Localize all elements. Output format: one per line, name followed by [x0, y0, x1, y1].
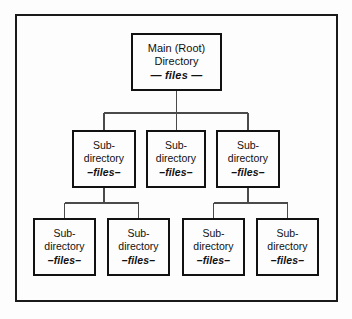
node-line1: Sub-	[237, 139, 259, 151]
node-line1: Sub-	[276, 227, 298, 239]
node-line1: Sub-	[165, 139, 187, 151]
node-subdirectory-mid-3: Sub- directory –files–	[216, 130, 280, 188]
node-files: –files–	[231, 166, 264, 178]
node-line2: directory	[44, 240, 84, 252]
node-files: –files–	[197, 254, 230, 266]
node-files: –files–	[271, 254, 304, 266]
node-line2: directory	[193, 240, 233, 252]
node-files: –files–	[159, 166, 192, 178]
node-root-line2: Directory	[154, 55, 198, 68]
node-files: –files–	[87, 166, 120, 178]
node-root-directory: Main (Root) Directory — files —	[131, 33, 222, 91]
node-line2: directory	[267, 240, 307, 252]
node-line1: Sub-	[53, 227, 75, 239]
node-line1: Sub-	[202, 227, 224, 239]
node-subdirectory-leaf-2: Sub- directory –files–	[107, 218, 170, 276]
node-subdirectory-leaf-4: Sub- directory –files–	[256, 218, 319, 276]
node-files: –files–	[48, 254, 81, 266]
node-line1: Sub-	[93, 139, 115, 151]
node-subdirectory-mid-2: Sub- directory –files–	[146, 130, 206, 188]
node-root-files: — files —	[151, 69, 203, 82]
node-line2: directory	[228, 152, 268, 164]
node-root-line1: Main (Root)	[148, 42, 205, 55]
diagram-canvas: Main (Root) Directory — files — Sub- dir…	[0, 0, 352, 319]
node-subdirectory-leaf-1: Sub- directory –files–	[33, 218, 96, 276]
node-line1: Sub-	[127, 227, 149, 239]
node-subdirectory-mid-1: Sub- directory –files–	[72, 130, 136, 188]
node-line2: directory	[84, 152, 124, 164]
node-subdirectory-leaf-3: Sub- directory –files–	[182, 218, 245, 276]
node-files: –files–	[122, 254, 155, 266]
node-line2: directory	[118, 240, 158, 252]
node-line2: directory	[156, 152, 196, 164]
